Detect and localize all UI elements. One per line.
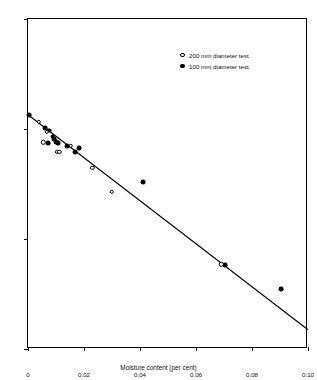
legend-label-200mm: 200 mm diameter test bbox=[189, 52, 249, 59]
x-tick-mark bbox=[308, 347, 309, 351]
x-tick-mark bbox=[84, 347, 85, 351]
x-tick-mark bbox=[252, 347, 253, 351]
data-point-filled bbox=[73, 150, 78, 155]
legend: 200 mm diameter test 100 mm diameter tes… bbox=[178, 50, 249, 72]
y-tick-mark bbox=[24, 129, 28, 130]
x-tick-label: 0.06 bbox=[181, 371, 211, 378]
data-point-filled bbox=[223, 263, 228, 268]
x-tick-mark bbox=[28, 347, 29, 351]
data-point-filled bbox=[140, 179, 145, 184]
data-point-filled bbox=[27, 113, 32, 118]
x-tick-label: 0.02 bbox=[69, 371, 99, 378]
data-point-filled bbox=[279, 287, 284, 292]
x-tick-label: 0.04 bbox=[125, 371, 155, 378]
x-tick-label: 0.08 bbox=[237, 371, 267, 378]
trend-line bbox=[28, 19, 308, 349]
filled-circle-marker-icon bbox=[178, 64, 187, 69]
legend-item-200mm: 200 mm diameter test bbox=[178, 50, 249, 60]
y-tick-mark bbox=[24, 239, 28, 240]
x-tick-label: 0.10 bbox=[293, 371, 317, 378]
x-tick-mark bbox=[140, 347, 141, 351]
x-tick-label: 0 bbox=[13, 371, 43, 378]
plot-area: 1.31.41.51.6 00.020.040.060.080.10 200 m… bbox=[27, 18, 307, 348]
data-point-filled bbox=[56, 140, 61, 145]
legend-item-100mm: 100 mm diameter test bbox=[178, 61, 249, 71]
cut-off-caption-strip bbox=[0, 0, 317, 9]
x-tick-mark bbox=[196, 347, 197, 351]
data-point-filled bbox=[46, 141, 51, 146]
legend-label-100mm: 100 mm diameter test bbox=[189, 63, 249, 70]
x-axis-title: Moisture content (per cent) bbox=[0, 364, 317, 371]
figure-container: Calibration bulk density (Mg/m³) Moistur… bbox=[0, 0, 317, 380]
y-tick-mark bbox=[24, 19, 28, 20]
open-circle-marker-icon bbox=[178, 53, 187, 57]
